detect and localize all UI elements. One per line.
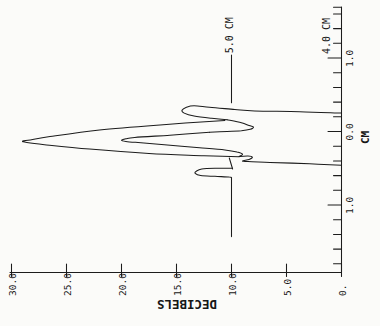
chart-figure: 30.025.020.015.010.05.00.1.00.01.0CMDECI… <box>0 0 380 326</box>
trace-4-0-cm <box>239 156 341 165</box>
decibel-tick-label: 5.0 <box>282 279 293 296</box>
series-curves <box>22 55 341 237</box>
trace-5-0-cm <box>22 121 239 157</box>
trace-label: 5.0 CM <box>224 17 235 53</box>
cm-tick-label: 1.0 <box>344 50 355 67</box>
decibel-tick-label: 15.0 <box>172 273 183 296</box>
cm-axis-title: CM <box>359 130 372 144</box>
decibel-tick-label: 0. <box>337 285 348 296</box>
trace-4-0-cm <box>229 158 232 169</box>
decibels-axis-title: DECIBELS <box>157 297 217 312</box>
cm-tick-label: 0.0 <box>344 123 355 140</box>
trace-5-0-cm <box>195 168 233 178</box>
trace-label: 4.0 CM <box>321 18 332 54</box>
decibel-tick-label: 30.0 <box>7 273 18 296</box>
cm-tick-label: 1.0 <box>344 197 355 214</box>
decibel-tick-label: 10.0 <box>227 273 238 296</box>
scanned-chart-page: 30.025.020.015.010.05.00.1.00.01.0CMDECI… <box>0 0 380 326</box>
axes <box>10 7 342 277</box>
decibel-tick-label: 20.0 <box>117 273 128 296</box>
decibel-tick-label: 25.0 <box>62 273 73 296</box>
trace-5-0-cm <box>182 106 342 120</box>
